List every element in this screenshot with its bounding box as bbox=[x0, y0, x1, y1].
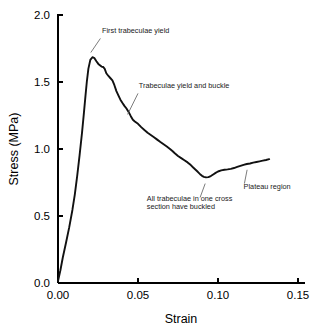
annotation-line: First trabeculae yield bbox=[102, 26, 169, 35]
x-tick-label-0.15: 0.15 bbox=[287, 289, 309, 301]
annotation-line: Plateau region bbox=[244, 182, 291, 191]
annotation-line: Trabeculae yield and buckle bbox=[139, 81, 230, 90]
y-axis-title: Stress (MPa) bbox=[7, 113, 21, 186]
chart-svg: 0.000.050.100.15 0.00.51.01.52.0 First t… bbox=[0, 0, 332, 330]
y-tick-label-0.5: 0.5 bbox=[34, 210, 50, 222]
stress-strain-chart: 0.000.050.100.15 0.00.51.01.52.0 First t… bbox=[0, 0, 332, 330]
annotation-label-plateau-region: Plateau region bbox=[244, 182, 291, 191]
x-tick-label-0.05: 0.05 bbox=[127, 289, 149, 301]
x-tick-label-0.00: 0.00 bbox=[47, 289, 69, 301]
x-tick-label-0.10: 0.10 bbox=[207, 289, 229, 301]
x-axis-title: Strain bbox=[165, 312, 198, 326]
y-tick-label-2.0: 2.0 bbox=[34, 9, 50, 21]
y-tick-label-1.0: 1.0 bbox=[34, 143, 50, 155]
y-tick-label-1.5: 1.5 bbox=[34, 76, 50, 88]
annotation-label-trabeculae-yield-and-buckle: Trabeculae yield and buckle bbox=[139, 81, 230, 90]
y-tick-label-0.0: 0.0 bbox=[34, 277, 50, 289]
annotation-label-first-trabeculae-yield: First trabeculae yield bbox=[102, 26, 169, 35]
annotation-line: section have buckled bbox=[147, 202, 215, 211]
